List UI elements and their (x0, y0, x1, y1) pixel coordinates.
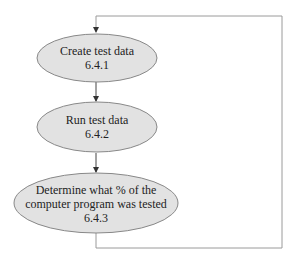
node-label: Create test data (60, 44, 135, 58)
node-determine-coverage: Determine what % of the computer program… (14, 173, 178, 233)
node-run-test-data: Run test data 6.4.2 (37, 102, 157, 152)
node-label: Run test data (66, 113, 129, 127)
node-label: Determine what % of the (36, 183, 157, 197)
node-label: computer program was tested (25, 197, 167, 211)
node-number: 6.4.2 (85, 127, 109, 141)
node-number: 6.4.3 (84, 211, 108, 225)
flowchart-canvas: Create test data 6.4.1 Run test data 6.4… (0, 0, 293, 260)
node-create-test-data: Create test data 6.4.1 (37, 34, 157, 82)
node-number: 6.4.1 (85, 58, 109, 72)
